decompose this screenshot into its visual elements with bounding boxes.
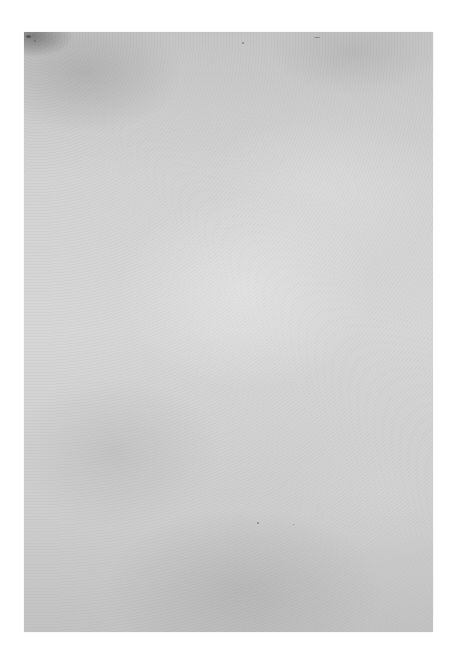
image-canvas (0, 0, 457, 661)
paper-speck (242, 42, 244, 44)
paper-speck (293, 524, 294, 525)
paper-speck (314, 37, 320, 38)
paper-texture (24, 32, 433, 632)
paper-speck (26, 35, 31, 38)
paper-speck (257, 522, 259, 524)
paper-speck (34, 40, 36, 42)
blank-paper-sheet (24, 32, 433, 632)
